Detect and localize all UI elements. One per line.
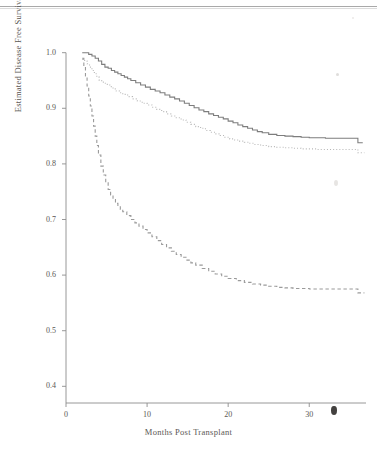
y-axis-tick-label: 0.7 <box>32 215 56 224</box>
figure-canvas: Estimated Disease Free Survival Months P… <box>0 0 377 457</box>
survival-curve-curve-1-solid <box>82 53 363 143</box>
survival-curve-curve-2-dotted <box>82 59 364 152</box>
y-axis-tick-label: 0.6 <box>32 270 56 279</box>
x-axis-tick-label: 0 <box>54 410 78 419</box>
y-axis-tick-label: 0.4 <box>32 381 56 390</box>
x-axis-tick-label: 30 <box>297 410 321 419</box>
y-axis-tick-label: 0.5 <box>32 326 56 335</box>
y-axis-title: Estimated Disease Free Survival <box>13 0 23 148</box>
y-axis-tick-label: 1.0 <box>32 48 56 57</box>
y-axis-tick-label: 0.9 <box>32 103 56 112</box>
y-axis-tick-label: 0.8 <box>32 159 56 168</box>
x-axis-tick-label: 10 <box>135 410 159 419</box>
x-axis-title: Months Post Transplant <box>0 427 377 437</box>
survival-plot <box>0 0 377 457</box>
x-axis-tick-label: 20 <box>216 410 240 419</box>
survival-curve-curve-3-dashed <box>82 58 364 293</box>
